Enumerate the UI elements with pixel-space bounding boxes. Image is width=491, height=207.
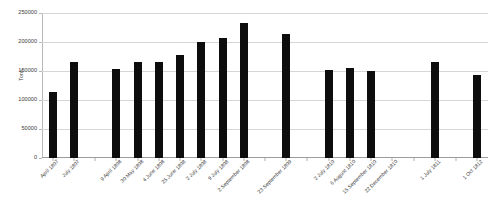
bar[interactable] [219, 38, 227, 158]
y-tick-label: 250000 [0, 10, 37, 16]
bar-slot [63, 13, 84, 158]
bar-slot [106, 13, 127, 158]
y-tick-label: 50000 [0, 126, 37, 132]
bar-slot [403, 13, 424, 158]
y-tick-label: 100000 [0, 97, 37, 103]
bar-slot [297, 13, 318, 158]
bar[interactable] [155, 62, 163, 158]
bar-slot [446, 13, 467, 158]
x-tick-label: July 1807 [61, 159, 80, 178]
x-tick-label: 30 May 1808 [119, 159, 144, 184]
bar[interactable] [346, 68, 354, 158]
bar-slot [84, 13, 105, 158]
bar[interactable] [473, 75, 481, 158]
bar[interactable] [49, 92, 57, 158]
bar-chart: Tons 050000100000150000200000250000 Apri… [0, 0, 491, 207]
bar[interactable] [112, 69, 120, 158]
x-tick-label: 1 Oct 1812 [462, 159, 484, 181]
x-tick-label: 1 July 1811 [419, 159, 441, 181]
bar-slot [233, 13, 254, 158]
bar-slot [361, 13, 382, 158]
bar-slot [148, 13, 169, 158]
y-axis-title: Tons [18, 55, 24, 95]
x-tick-label: 23 September 1809 [257, 159, 293, 195]
bar-slot [212, 13, 233, 158]
bar[interactable] [325, 70, 333, 158]
x-tick-label: 2 July 1808 [186, 159, 208, 181]
bar-slot [467, 13, 488, 158]
bar[interactable] [282, 34, 290, 158]
plot-area [42, 13, 488, 158]
bar-slot [254, 13, 275, 158]
bar[interactable] [134, 62, 142, 158]
bar-slot [424, 13, 445, 158]
bar-slot [339, 13, 360, 158]
bar-slot [42, 13, 63, 158]
bars-layer [42, 13, 488, 158]
bar-slot [127, 13, 148, 158]
bar[interactable] [240, 23, 248, 158]
bar-slot [169, 13, 190, 158]
bar-slot [382, 13, 403, 158]
bar[interactable] [176, 55, 184, 158]
bar-slot [276, 13, 297, 158]
y-tick-label: 200000 [0, 39, 37, 45]
bar[interactable] [70, 62, 78, 158]
bar[interactable] [431, 62, 439, 158]
x-tick-labels: April 1807July 18079 April 180830 May 18… [42, 159, 488, 207]
y-tick-label: 150000 [0, 68, 37, 74]
x-tick-label: April 1807 [39, 159, 59, 179]
bar-slot [318, 13, 339, 158]
bar[interactable] [367, 71, 375, 158]
bar-slot [191, 13, 212, 158]
bar[interactable] [197, 42, 205, 158]
y-tick-label: 0 [0, 155, 37, 161]
